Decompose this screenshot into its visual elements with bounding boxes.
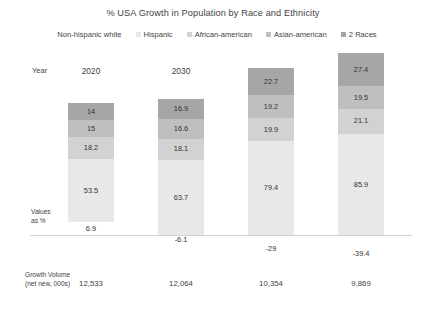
- legend-item-label: Non-hispanic white: [57, 31, 121, 39]
- bar-segment[interactable]: 21.1: [338, 109, 384, 134]
- legend-swatch-icon: [341, 32, 346, 37]
- legend-swatch-icon: [136, 32, 141, 37]
- bar-segment[interactable]: 18.1: [158, 139, 204, 160]
- bar-segment-value: 79.4: [264, 184, 278, 191]
- bar-segment-value: 6.9: [86, 225, 96, 232]
- bar-segment-value: 53.5: [84, 187, 98, 194]
- plot-area: 141518.253.56.916.916.618.163.7-6.122.71…: [0, 84, 426, 256]
- bar-segment-value: 16.9: [174, 105, 188, 112]
- bar-segment-value: 27.4: [354, 66, 368, 73]
- bar-segment[interactable]: 79.4: [248, 141, 294, 235]
- bar-segment[interactable]: 18.2: [68, 137, 114, 158]
- bar-segment-value: 22.7: [264, 78, 278, 85]
- growth-volume-value: 12,533: [61, 279, 121, 288]
- values-label-line1: Values: [31, 208, 51, 217]
- bar-column[interactable]: 27.419.521.185.9: [338, 53, 384, 235]
- bar-segment[interactable]: 53.5: [68, 159, 114, 222]
- year-axis-label: Year: [32, 66, 47, 75]
- bar-stack: 27.419.521.185.9: [338, 53, 384, 235]
- legend-swatch-icon: [266, 32, 271, 37]
- legend-swatch-icon: [187, 32, 192, 37]
- bar-negative-value: -29: [248, 244, 294, 253]
- bar-segment[interactable]: 16.6: [158, 119, 204, 139]
- bar-segment[interactable]: 16.9: [158, 99, 204, 119]
- legend-item[interactable]: Asian-american: [266, 31, 327, 39]
- chart-legend: Non-hispanic whiteHispanicAfrican-americ…: [0, 31, 426, 39]
- bar-segment-value: 85.9: [354, 181, 368, 188]
- legend-item[interactable]: Non-hispanic white: [49, 31, 121, 39]
- growth-volume-value: 10,354: [241, 279, 301, 288]
- values-as-percent-label: Values as %: [31, 208, 51, 225]
- bar-column[interactable]: 16.916.618.163.7: [158, 99, 204, 235]
- legend-item-label: 2 Races: [349, 31, 377, 39]
- growth-volume-value: 12,064: [151, 279, 211, 288]
- legend-item[interactable]: 2 Races: [341, 31, 377, 39]
- values-label-line2: as %: [31, 217, 51, 226]
- legend-item[interactable]: African-american: [187, 31, 252, 39]
- legend-item-label: African-american: [195, 31, 252, 39]
- bar-segment[interactable]: 63.7: [158, 160, 204, 235]
- bar-segment[interactable]: 15: [68, 120, 114, 138]
- bar-segment-value: 21.1: [354, 117, 368, 124]
- bar-segment[interactable]: 14: [68, 103, 114, 120]
- year-label: 2030: [151, 66, 211, 76]
- bar-segment[interactable]: 19.9: [248, 118, 294, 141]
- bar-segment-value: 19.5: [354, 94, 368, 101]
- bar-segment[interactable]: 19.5: [338, 86, 384, 109]
- bar-segment-value: 18.1: [174, 145, 188, 152]
- bar-segment[interactable]: 19.2: [248, 95, 294, 118]
- bar-negative-value: -39.4: [338, 249, 384, 258]
- bar-segment-value: 63.7: [174, 194, 188, 201]
- bar-segment-value: 16.6: [174, 125, 188, 132]
- zero-baseline: [30, 235, 412, 236]
- chart-title: % USA Growth in Population by Race and E…: [0, 8, 426, 18]
- chart-container: % USA Growth in Population by Race and E…: [0, 0, 426, 310]
- legend-item-label: Hispanic: [144, 31, 173, 39]
- bar-negative-value: -6.1: [158, 235, 204, 244]
- bar-stack: 22.719.219.979.4: [248, 68, 294, 235]
- bar-segment[interactable]: 22.7: [248, 68, 294, 95]
- legend-item[interactable]: Hispanic: [136, 31, 173, 39]
- growth-volume-value: 9,869: [331, 279, 391, 288]
- legend-item-label: Asian-american: [274, 31, 327, 39]
- bar-segment-value: 18.2: [84, 144, 98, 151]
- bar-stack: 16.916.618.163.7: [158, 99, 204, 235]
- bar-segment[interactable]: 27.4: [338, 53, 384, 85]
- bar-segment-white[interactable]: 6.9: [68, 222, 114, 235]
- bar-segment-value: 15: [87, 125, 95, 132]
- bar-column[interactable]: 141518.253.56.9: [68, 103, 114, 235]
- year-label: 2020: [61, 66, 121, 76]
- growth-volume-row: Growth Volume (net new, 000s) 12,53312,0…: [0, 271, 426, 295]
- bar-column[interactable]: 22.719.219.979.4: [248, 68, 294, 235]
- bar-segment-value: 19.2: [264, 103, 278, 110]
- bar-segment-value: 14: [87, 108, 95, 115]
- bar-segment[interactable]: 85.9: [338, 134, 384, 235]
- bar-stack: 141518.253.56.9: [68, 103, 114, 235]
- legend-swatch-icon: [49, 32, 54, 37]
- bar-segment-value: 19.9: [264, 126, 278, 133]
